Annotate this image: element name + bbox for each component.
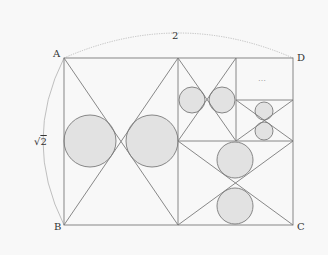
inscribed-circle-7 [217,142,253,178]
top-dimension-arc [64,33,293,58]
inscribed-circle-8 [217,188,253,224]
vertex-label-b: B [54,222,61,232]
vertex-label-a: A [53,49,60,59]
vertex-label-c: C [297,222,305,232]
sqrt-radicand: 2 [40,136,46,147]
vertex-label-d: D [297,53,305,63]
top-dimension-label: 2 [172,31,178,41]
left-dimension-label: √2 [34,136,47,147]
inscribed-circle-5 [255,102,273,120]
ellipsis-label: … [258,75,266,83]
inscribed-circles [64,87,273,224]
geometry-figure [0,0,328,255]
diagram-canvas: A B C D 2 √2 … [0,0,328,255]
